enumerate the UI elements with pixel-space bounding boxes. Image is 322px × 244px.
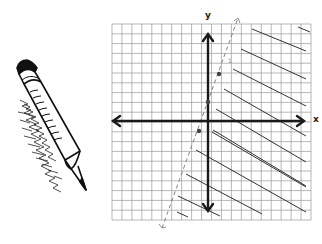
inequality-graph-canvas [0, 0, 322, 244]
x-axis-label: x [313, 114, 319, 124]
y-axis-label: y [205, 10, 211, 20]
pencil-icon [17, 60, 86, 190]
boundary-line [162, 18, 238, 228]
tick-mark-label: 1 [228, 57, 232, 64]
